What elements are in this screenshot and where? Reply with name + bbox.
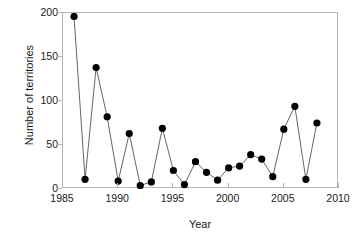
x-axis-tick-marks (62, 188, 338, 189)
x-tick-label: 2005 (263, 192, 303, 204)
data-point (70, 13, 77, 20)
y-tick-label: 100 (24, 94, 58, 106)
data-point (247, 151, 254, 158)
x-axis-tick-labels: 198519901995200020052010 (62, 192, 338, 208)
y-tick-label: 50 (24, 138, 58, 150)
x-tick-label: 1985 (42, 192, 82, 204)
x-tick-mark (228, 183, 229, 188)
x-tick-label: 2010 (318, 192, 358, 204)
y-tick-label: 150 (24, 50, 58, 62)
x-axis-title: Year (62, 218, 338, 230)
data-point (203, 169, 210, 176)
plot-area (62, 12, 338, 188)
data-point (104, 113, 111, 120)
x-tick-mark (117, 183, 118, 188)
data-point (126, 130, 133, 137)
chart-figure: Number of territories 050100150200 19851… (0, 0, 363, 245)
x-tick-label: 1995 (152, 192, 192, 204)
data-point (115, 177, 122, 184)
data-point (170, 167, 177, 174)
data-point (302, 176, 309, 183)
data-point (236, 163, 243, 170)
y-axis-tick-labels: 050100150200 (20, 12, 58, 188)
x-tick-label: 2000 (208, 192, 248, 204)
data-point (258, 155, 265, 162)
x-tick-label: 1990 (97, 192, 137, 204)
series-canvas (63, 13, 339, 189)
data-point (148, 178, 155, 185)
x-tick-mark (172, 183, 173, 188)
data-point (93, 64, 100, 71)
data-point (280, 126, 287, 133)
y-tick-label: 200 (24, 6, 58, 18)
data-point (214, 177, 221, 184)
data-point (192, 158, 199, 165)
x-tick-mark (62, 183, 63, 188)
data-point (269, 173, 276, 180)
data-point (225, 164, 232, 171)
x-tick-mark (283, 183, 284, 188)
data-point (81, 176, 88, 183)
x-tick-mark (338, 183, 339, 188)
data-point (291, 103, 298, 110)
data-point (313, 119, 320, 126)
data-point (159, 125, 166, 132)
